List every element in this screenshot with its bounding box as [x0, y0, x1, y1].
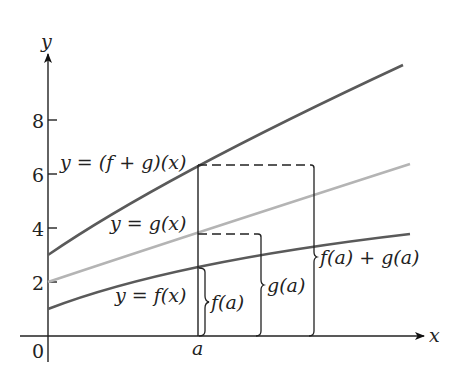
brace-f — [199, 268, 209, 336]
curve-label-sum: y = (f + g)(x) — [59, 151, 186, 173]
dashed-g — [198, 234, 261, 237]
brace-g — [256, 237, 264, 336]
x-axis-label: x — [429, 324, 440, 346]
function-sum-diagram: 8 6 4 2 0 y x a f(a) g(a) f(a) + g(a) y … — [0, 0, 459, 380]
brace-label-sum: f(a) + g(a) — [318, 246, 420, 268]
origin-label: 0 — [32, 340, 44, 362]
curve-label-g: y = g(x) — [109, 212, 186, 234]
dashed-sum — [198, 165, 314, 168]
tick-label-4: 4 — [32, 218, 44, 240]
tick-label-8: 8 — [32, 110, 44, 132]
y-axis-label: y — [40, 30, 52, 52]
a-label: a — [192, 337, 203, 359]
curve-label-f: y = f(x) — [114, 284, 186, 306]
brace-label-g: g(a) — [267, 274, 305, 296]
brace-label-f: f(a) — [209, 291, 244, 313]
tick-label-6: 6 — [32, 164, 44, 186]
tick-label-2: 2 — [32, 272, 44, 294]
